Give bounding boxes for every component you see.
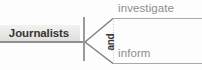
branch-label-inform: inform	[118, 47, 151, 59]
branch-label-investigate: investigate	[118, 2, 174, 14]
diagram-canvas: Journalists and investigate inform	[0, 0, 202, 70]
branch-rule-bottom	[113, 63, 202, 64]
branch-rule-top	[113, 18, 202, 19]
